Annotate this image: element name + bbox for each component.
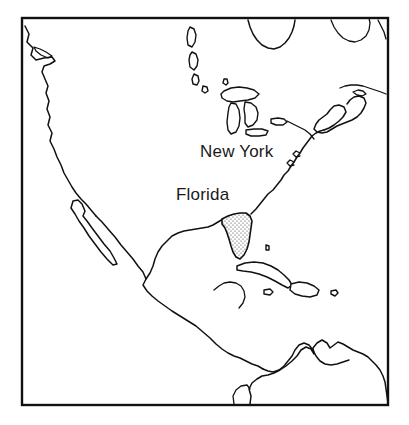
map-figure: New York Florida [0,0,409,425]
hudson-bay [248,20,295,49]
st-lawrence-river [287,121,314,139]
label-florida: Florida [176,185,230,204]
gulf-of-mexico-coast [146,217,228,279]
yucatan-peninsula [214,282,245,308]
mainland-west-coast [25,26,96,216]
great-lakes [221,79,287,136]
canada-maritimes [314,85,386,133]
arctic-islands-west [187,27,208,93]
vancouver-island [34,47,52,58]
florida-region [222,213,252,259]
label-new-york: New York [200,142,274,161]
baffin-island [331,18,386,42]
caribbean-islands [237,245,338,297]
map-canvas: New York Florida [0,0,409,425]
south-america-north-coast [233,340,388,404]
